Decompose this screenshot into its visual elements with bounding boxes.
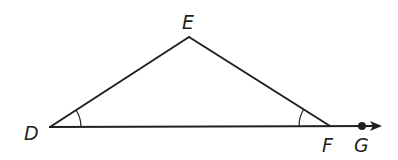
segment-ef <box>189 37 330 126</box>
label-g: G <box>354 134 369 156</box>
angle-arc-d <box>76 110 81 127</box>
ray-dg <box>49 126 378 127</box>
point-g-dot <box>358 122 366 130</box>
angle-arc-f <box>299 109 304 126</box>
label-e: E <box>182 11 194 33</box>
label-d: D <box>24 122 39 144</box>
segment-de <box>50 37 189 127</box>
label-f: F <box>322 134 334 156</box>
triangle-diagram: E D F G <box>0 0 398 160</box>
diagram-svg: E D F G <box>0 0 398 160</box>
